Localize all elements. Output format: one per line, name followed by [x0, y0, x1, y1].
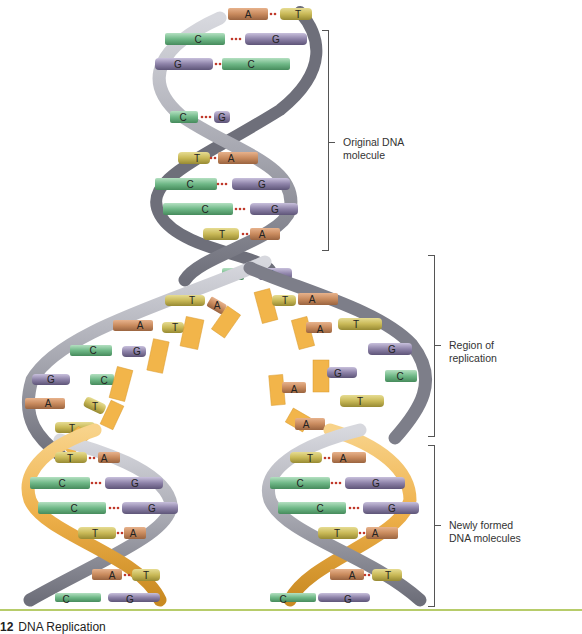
caption-number: 12 [0, 620, 13, 634]
svg-text:C: C [247, 59, 254, 70]
bracket-replication-tick [435, 345, 441, 346]
svg-text:A: A [245, 9, 252, 20]
svg-text:T: T [385, 570, 391, 581]
label-newly-formed: Newly formed DNA molecules [449, 519, 521, 545]
svg-text:G: G [258, 179, 266, 190]
svg-text:G: G [388, 344, 396, 355]
svg-text:A: A [45, 398, 52, 409]
svg-text:T: T [353, 319, 359, 330]
svg-text:G: G [218, 112, 226, 123]
bracket-replication [428, 255, 435, 437]
svg-text:C: C [58, 478, 65, 489]
svg-text:C: C [100, 375, 107, 386]
svg-text:A: A [214, 300, 221, 311]
svg-text:T: T [172, 322, 178, 333]
svg-text:C: C [316, 503, 323, 514]
svg-text:T: T [143, 570, 149, 581]
svg-text:G: G [126, 594, 134, 605]
svg-text:C: C [62, 594, 69, 605]
svg-text:G: G [133, 346, 141, 357]
svg-text:G: G [344, 594, 352, 605]
bracket-original [322, 30, 329, 251]
svg-text:A: A [259, 229, 266, 240]
svg-text:C: C [194, 34, 201, 45]
svg-text:T: T [357, 396, 363, 407]
svg-text:G: G [271, 204, 279, 215]
new-right-helix: T A C G C G T A A T C G [268, 430, 420, 605]
svg-text:A: A [130, 528, 137, 539]
svg-text:C: C [279, 594, 286, 605]
svg-text:A: A [309, 294, 316, 305]
svg-text:G: G [174, 59, 182, 70]
svg-text:C: C [201, 204, 208, 215]
svg-text:C: C [296, 478, 303, 489]
svg-text:T: T [92, 528, 98, 539]
svg-text:C: C [89, 345, 96, 356]
bracket-original-tick [329, 142, 335, 143]
svg-text:T: T [67, 453, 73, 464]
svg-text:A: A [291, 384, 298, 395]
label-region-of-replication: Region of replication [449, 339, 497, 365]
svg-text:T: T [295, 9, 301, 20]
caption-title: DNA Replication [18, 620, 105, 634]
svg-text:C: C [396, 371, 403, 382]
svg-text:T: T [334, 528, 340, 539]
svg-text:A: A [137, 320, 144, 331]
svg-text:T: T [282, 295, 288, 306]
new-left-helix: T A C G C G T A A T C G [28, 430, 178, 605]
svg-text:A: A [228, 153, 235, 164]
label-original-dna: Original DNA molecule [343, 136, 404, 162]
svg-text:T: T [307, 453, 313, 464]
svg-text:T: T [219, 229, 225, 240]
svg-text:C: C [186, 179, 193, 190]
svg-text:G: G [388, 503, 396, 514]
svg-text:G: G [131, 478, 139, 489]
svg-text:T: T [92, 401, 98, 412]
svg-text:G: G [148, 503, 156, 514]
svg-text:A: A [372, 528, 379, 539]
svg-text:T: T [194, 153, 200, 164]
svg-text:C: C [70, 503, 77, 514]
svg-text:G: G [47, 374, 55, 385]
bracket-new-tick [435, 525, 441, 526]
original-helix [156, 12, 316, 280]
svg-text:G: G [334, 368, 342, 379]
svg-text:A: A [340, 453, 347, 464]
svg-text:A: A [317, 324, 324, 335]
caption-rule [0, 609, 582, 611]
svg-text:A: A [303, 419, 310, 430]
figure-caption: 12DNA Replication [0, 620, 106, 634]
svg-text:G: G [372, 478, 380, 489]
svg-text:G: G [272, 34, 280, 45]
svg-text:A: A [101, 453, 108, 464]
svg-text:A: A [349, 570, 356, 581]
svg-text:A: A [109, 570, 116, 581]
svg-text:C: C [179, 112, 186, 123]
svg-text:T: T [189, 295, 195, 306]
bracket-new [428, 445, 435, 607]
